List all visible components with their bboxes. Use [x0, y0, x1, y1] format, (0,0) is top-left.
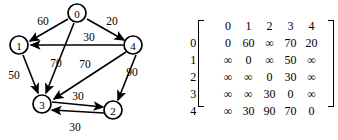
matrix-bracket-cell — [202, 103, 218, 120]
matrix-bracket-spacer-left — [202, 18, 218, 35]
graph-panel: 0 1 2 3 4 60 20 70 30 70 90 50 30 — [0, 0, 172, 140]
matrix-row-header-3: 3 — [184, 86, 202, 103]
matrix-cell-2-1: ∞ — [238, 69, 259, 86]
matrix-bracket-cell — [322, 52, 338, 69]
matrix-row-header-1: 1 — [184, 52, 202, 69]
edge-1-3 — [23, 55, 38, 93]
table-row: 4 ∞ 30 90 70 0 — [184, 103, 338, 120]
node-1-label: 1 — [16, 40, 22, 52]
matrix-cell-0-4: 20 — [301, 35, 322, 52]
matrix-cell-0-3: 70 — [280, 35, 301, 52]
matrix-cell-4-2: 90 — [259, 103, 280, 120]
matrix-bracket-spacer-right — [322, 18, 338, 35]
matrix-cell-4-4: 0 — [301, 103, 322, 120]
matrix-bracket-cell — [202, 35, 218, 52]
matrix-cell-2-2: 0 — [259, 69, 280, 86]
matrix-col-header-1: 1 — [238, 18, 259, 35]
matrix-cell-4-1: 30 — [238, 103, 259, 120]
matrix-cell-1-2: ∞ — [259, 52, 280, 69]
matrix-cell-1-3: 50 — [280, 52, 301, 69]
matrix-cell-0-2: ∞ — [259, 35, 280, 52]
matrix-bracket-cell — [202, 86, 218, 103]
matrix-cell-3-4: ∞ — [301, 86, 322, 103]
edge-weight-1-3: 50 — [8, 69, 20, 81]
edge-weight-0-1: 60 — [37, 15, 49, 27]
matrix-row-header-0: 0 — [184, 35, 202, 52]
matrix-bracket-cell — [322, 35, 338, 52]
matrix-row-header-4: 4 — [184, 103, 202, 120]
edge-3-2 — [52, 102, 103, 107]
matrix-cell-3-3: 0 — [280, 86, 301, 103]
matrix-col-header-4: 4 — [301, 18, 322, 35]
matrix-cell-3-1: ∞ — [238, 86, 259, 103]
table-row: 3 ∞ ∞ 30 0 ∞ — [184, 86, 338, 103]
figure-root: 0 1 2 3 4 60 20 70 30 70 90 50 30 — [0, 0, 338, 140]
matrix-col-header-0: 0 — [218, 18, 238, 35]
matrix-col-header-3: 3 — [280, 18, 301, 35]
matrix-cell-3-0: ∞ — [218, 86, 238, 103]
matrix-cell-3-2: 30 — [259, 86, 280, 103]
edge-weight-4-2: 90 — [126, 66, 138, 78]
matrix-bracket-cell — [202, 52, 218, 69]
graph-diagram: 0 1 2 3 4 60 20 70 30 70 90 50 30 — [0, 0, 172, 140]
matrix-cell-4-0: ∞ — [218, 103, 238, 120]
edge-weight-0-3: 70 — [50, 57, 62, 69]
edge-weight-0-4: 20 — [106, 15, 118, 27]
matrix-cell-0-1: 60 — [238, 35, 259, 52]
node-4-label: 4 — [130, 40, 136, 52]
node-3-label: 3 — [39, 99, 45, 111]
matrix-corner-cell — [184, 18, 202, 35]
matrix-cell-4-3: 70 — [280, 103, 301, 120]
table-row: 1 ∞ 0 ∞ 50 ∞ — [184, 52, 338, 69]
matrix-cell-2-0: ∞ — [218, 69, 238, 86]
matrix-bracket-cell — [322, 86, 338, 103]
edge-0-1 — [30, 19, 68, 41]
edge-weight-2-3: 30 — [69, 121, 81, 133]
matrix-cell-1-4: ∞ — [301, 52, 322, 69]
edge-weight-4-1: 30 — [83, 31, 95, 43]
edge-2-3 — [52, 110, 104, 113]
matrix-header-row: 0 1 2 3 4 — [184, 18, 338, 35]
adjacency-matrix-table: 0 1 2 3 4 0 0 60 ∞ 70 20 — [184, 18, 338, 120]
matrix-cell-0-0: 0 — [218, 35, 238, 52]
matrix-row-header-2: 2 — [184, 69, 202, 86]
table-row: 2 ∞ ∞ 0 30 ∞ — [184, 69, 338, 86]
matrix-bracket-cell — [202, 69, 218, 86]
node-0-label: 0 — [74, 8, 80, 20]
matrix-col-header-2: 2 — [259, 18, 280, 35]
edge-weight-4-3: 70 — [79, 58, 91, 70]
table-row: 0 0 60 ∞ 70 20 — [184, 35, 338, 52]
matrix-cell-2-4: ∞ — [301, 69, 322, 86]
matrix-panel: 0 1 2 3 4 0 0 60 ∞ 70 20 — [176, 0, 338, 140]
edge-weight-3-2: 30 — [72, 90, 84, 102]
matrix-bracket-cell — [322, 69, 338, 86]
matrix-cell-2-3: 30 — [280, 69, 301, 86]
node-2-label: 2 — [110, 105, 116, 117]
matrix-cell-1-0: ∞ — [218, 52, 238, 69]
matrix-bracket-cell — [322, 103, 338, 120]
matrix-cell-1-1: 0 — [238, 52, 259, 69]
